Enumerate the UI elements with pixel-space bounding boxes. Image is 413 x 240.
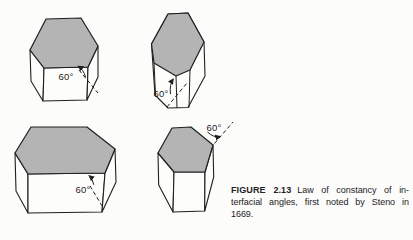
prism-top-face-shaded (30, 18, 98, 68)
prism-front-face (28, 173, 105, 213)
crystal-hexagonal-prism-wide: 60° (15, 127, 116, 213)
caption-text-start: Law of constancy of in- (297, 185, 409, 195)
crystal-hexagonal-prism-elongated: 60° (152, 13, 206, 108)
crystal-hexagonal-prism-large: 60° (30, 18, 98, 101)
figure-caption: FIGURE 2.13Law of constancy of in- terfa… (231, 184, 409, 220)
caption-line-1: FIGURE 2.13Law of constancy of in- (231, 184, 409, 196)
angle-label: 60° (59, 71, 74, 82)
angle-label: 60° (154, 88, 169, 99)
caption-line-2: terfacial angles, first noted by Steno i… (231, 196, 409, 208)
caption-line-3: 1669. (231, 208, 409, 220)
figure-number: FIGURE 2.13 (231, 185, 297, 195)
prism-front-face (173, 172, 205, 212)
prism-top-face-shaded (15, 127, 115, 174)
crystal-hexagonal-prism-small: 60° (158, 122, 233, 212)
angle-label: 60° (207, 122, 222, 133)
figure-page: 60° 60° 60° (0, 0, 413, 240)
angle-label: 60° (76, 184, 91, 195)
